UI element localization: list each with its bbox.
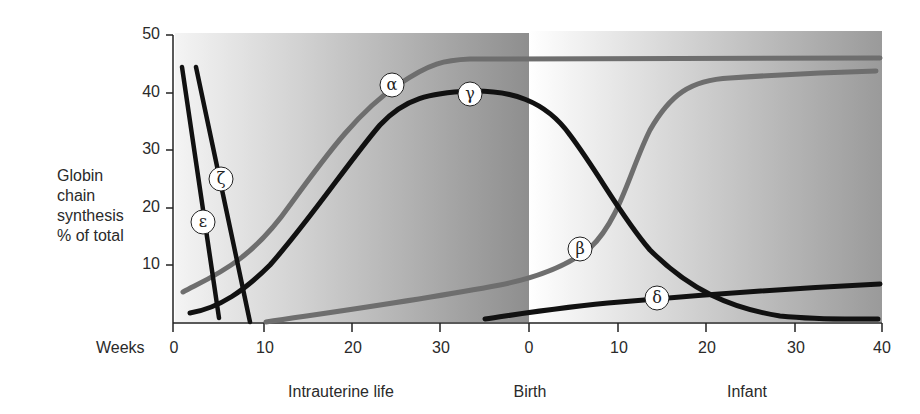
gamma-label: γ <box>458 82 482 106</box>
delta-label: δ <box>645 286 669 310</box>
section-infant: Infant <box>727 383 767 401</box>
svg-text:ζ: ζ <box>217 169 226 188</box>
x-tick-infant-20: 20 <box>698 339 716 357</box>
svg-text:δ: δ <box>652 288 662 307</box>
zeta-label: ζ <box>209 167 233 191</box>
y-tick-10: 10 <box>120 255 160 273</box>
x-tick-0: 0 <box>170 339 179 357</box>
weeks-label: Weeks <box>96 339 145 357</box>
svg-text:γ: γ <box>465 84 475 103</box>
x-tick-birth-0: 0 <box>525 339 534 357</box>
x-tick-infant-30: 30 <box>787 339 805 357</box>
svg-text:α: α <box>387 75 398 94</box>
y-axis-title: Globin chain synthesis % of total <box>57 166 124 246</box>
x-tick-30: 30 <box>432 339 450 357</box>
svg-text:β: β <box>575 239 584 258</box>
x-tick-infant-10: 10 <box>610 339 628 357</box>
section-birth: Birth <box>514 383 547 401</box>
y-tick-20: 20 <box>120 198 160 216</box>
y-tick-40: 40 <box>120 83 160 101</box>
svg-text:ε: ε <box>199 212 207 231</box>
x-tick-20: 20 <box>344 339 362 357</box>
y-tick-30: 30 <box>120 140 160 158</box>
x-axis <box>173 323 882 332</box>
alpha-label: α <box>380 73 404 97</box>
epsilon-label: ε <box>191 210 215 234</box>
section-intrauterine: Intrauterine life <box>288 383 394 401</box>
x-tick-10: 10 <box>256 339 274 357</box>
beta-label: β <box>568 237 592 261</box>
y-axis <box>166 35 173 323</box>
x-tick-infant-40: 40 <box>873 339 891 357</box>
y-tick-50: 50 <box>120 25 160 43</box>
